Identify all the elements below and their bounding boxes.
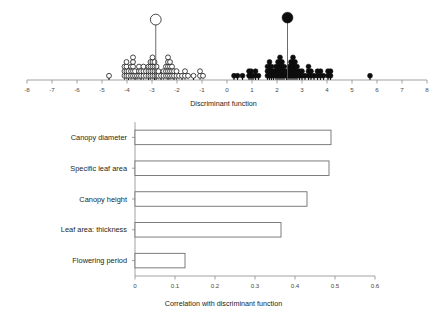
filled-circle-marker [282,64,287,69]
bar-chart-tick-label: 0 [133,282,137,289]
bar-chart-tick-label: 0.5 [331,282,340,289]
open-circle-marker [141,64,146,69]
open-circle-marker [150,55,155,60]
open-circle-marker [170,64,175,69]
filled-circle-marker [306,64,311,69]
bar-chart-tick-label: 0.6 [371,282,380,289]
open-circle-marker [154,64,159,69]
open-circle-marker [191,73,196,78]
open-circle-marker [201,73,206,78]
bottom-x-axis-label: Correlation with discriminant function [165,299,282,308]
filled-circle-marker [256,73,261,78]
bar-chart-tick-label: 0.4 [291,282,300,289]
filled-circle-marker [318,69,323,74]
filled-circle-marker [249,69,254,74]
open-circle-marker [131,55,136,60]
bar-row: Leaf area: thickness [61,223,281,238]
filled-circle-marker [300,69,305,74]
bar-rect [135,192,307,207]
dot-series-group-open-circles [107,14,206,80]
open-circle-marker [174,69,179,74]
bar-rect [135,161,329,176]
open-circle-marker [152,60,157,65]
correlation-bar-chart-svg: 00.10.20.30.40.50.6Canopy diameterSpecif… [0,110,447,317]
open-circle-marker [131,60,136,65]
bar-chart-tick-label: 0.3 [251,282,260,289]
bar-category-label: Specific leaf area [70,164,128,173]
open-circle-marker [131,64,136,69]
filled-circle-marker [328,73,333,78]
top-axis-group: -8-7-6-5-4-3-2-1012345678 [24,80,429,93]
filled-circle-marker [253,69,258,74]
filled-circle-marker [278,55,283,60]
top-x-axis-label: Discriminant function [190,99,257,108]
open-circle-marker [183,69,188,74]
bar-chart-tick-label: 0.2 [211,282,220,289]
open-circle-marker [156,69,161,74]
filled-circle-marker [235,73,240,78]
centroid-filled-circle [282,12,293,23]
filled-circle-marker [240,73,245,78]
open-circle-marker [107,73,112,78]
figure-container: -8-7-6-5-4-3-2-1012345678 Discriminant f… [0,0,447,317]
filled-circle-marker [267,60,272,65]
centroid-open-circle [150,14,161,25]
bar-rect [135,253,185,268]
open-circle-marker [124,60,129,65]
filled-circle-marker [368,73,373,78]
bar-category-label: Canopy diameter [71,133,128,142]
filled-circle-marker [295,64,300,69]
filled-circle-marker [280,60,285,65]
open-circle-marker [168,60,173,65]
dot-series-group-filled-circles [232,12,373,80]
bar-row: Flowering period [72,253,185,268]
filled-circle-marker [321,73,326,78]
bar-category-label: Leaf area: thickness [61,225,127,234]
bar-category-label: Flowering period [72,256,127,265]
filled-circle-marker [328,69,333,74]
bar-row: Canopy height [79,192,307,207]
bar-rect [135,130,331,145]
bar-row: Canopy diameter [71,130,331,145]
filled-circle-marker [269,64,274,69]
filled-circle-marker [309,69,314,74]
filled-circle-marker [291,55,296,60]
bar-chart-tick-label: 0.1 [171,282,180,289]
open-circle-marker [186,73,191,78]
bar-row: Specific leaf area [70,161,329,176]
dot-histogram-panel: -8-7-6-5-4-3-2-1012345678 Discriminant f… [0,0,447,110]
bar-chart-group: 00.10.20.30.40.50.6Canopy diameterSpecif… [61,122,380,289]
filled-circle-marker [293,60,298,65]
bar-category-label: Canopy height [79,195,127,204]
open-circle-marker [198,69,203,74]
open-circle-marker [166,55,171,60]
correlation-bar-chart-panel: 00.10.20.30.40.50.6Canopy diameterSpecif… [0,110,447,317]
bar-rect [135,223,281,238]
